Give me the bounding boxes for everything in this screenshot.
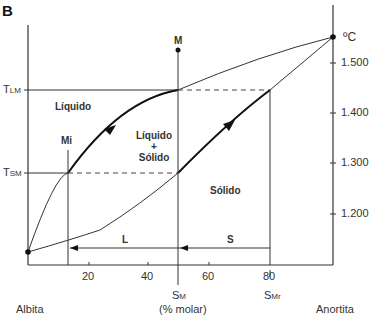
x-tick-label-80: 80: [263, 270, 275, 282]
x-tick-label-60: 60: [202, 270, 214, 282]
region-liquid: Líquido: [55, 101, 91, 112]
lever-l-label: L: [122, 234, 128, 245]
anortita-label: Anortita: [316, 303, 354, 315]
x-tick-label-40: 40: [141, 270, 153, 282]
liquidus-curve: [28, 37, 333, 252]
tlm-label: TLM: [3, 83, 21, 95]
point-m: [176, 48, 181, 53]
lever-l-arrow-icon: [70, 245, 78, 251]
solidus-curve: [28, 37, 333, 252]
y-tick-label-1400: 1.400: [341, 106, 369, 118]
point-mi-label: Mi: [61, 135, 72, 146]
point-m-label: M: [174, 35, 182, 46]
axis-unit-label: (% molar): [159, 303, 207, 315]
tsm-label: TSM: [3, 166, 22, 178]
arrow-solidus-icon: [223, 120, 235, 131]
lever-s-arrow-icon: [180, 245, 188, 251]
anortita-melting-point: [330, 34, 336, 40]
sm-label: SM: [172, 289, 186, 301]
lever-s-label: S: [227, 234, 234, 245]
panel-label: B: [2, 2, 13, 19]
region-solid: Sólido: [210, 185, 241, 196]
unit-label: ºC: [343, 30, 356, 44]
smr-label: SMr: [264, 289, 281, 301]
y-tick-label-1500: 1.500: [341, 56, 369, 68]
region-liquid-solid: Líquido + Sólido: [132, 130, 176, 163]
x-tick-label-20: 20: [82, 270, 94, 282]
albita-label: Albita: [16, 303, 44, 315]
albita-melting-point: [25, 249, 31, 255]
y-tick-label-1200: 1.200: [341, 207, 369, 219]
y-tick-label-1300: 1.300: [341, 156, 369, 168]
solid-path-bold: [178, 90, 270, 173]
